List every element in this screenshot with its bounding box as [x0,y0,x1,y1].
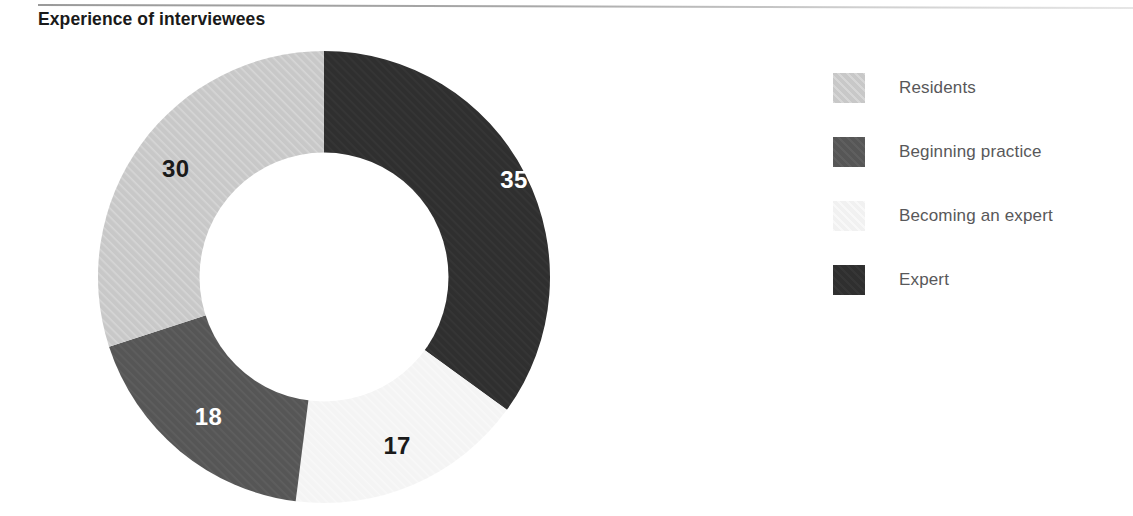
legend-item-becoming-an-expert[interactable]: Becoming an expert [833,184,1123,248]
chart-legend: Residents Beginning practice Becoming an… [833,56,1123,312]
legend-swatch-expert [833,265,865,295]
legend-swatch-residents [833,73,865,103]
slice-value-beginning-practice: 18 [195,403,222,430]
slice-value-residents: 30 [162,155,189,182]
legend-label-becoming-an-expert: Becoming an expert [899,206,1053,226]
donut-chart-svg: 35171830 [97,50,551,504]
legend-label-beginning-practice: Beginning practice [899,142,1042,162]
legend-label-expert: Expert [899,270,949,290]
legend-item-beginning-practice[interactable]: Beginning practice [833,120,1123,184]
legend-label-residents: Residents [899,78,976,98]
donut-chart-figure: 35171830 Residents Beginning practice Be… [0,0,1133,516]
legend-swatch-beginning-practice [833,137,865,167]
legend-item-residents[interactable]: Residents [833,56,1123,120]
slice-value-becoming-an-expert: 17 [383,432,410,459]
legend-swatch-becoming-an-expert [833,201,865,231]
donut-chart: 35171830 [97,50,551,504]
legend-item-expert[interactable]: Expert [833,248,1123,312]
donut-center-hole [200,153,449,402]
slice-value-expert: 35 [500,166,527,193]
